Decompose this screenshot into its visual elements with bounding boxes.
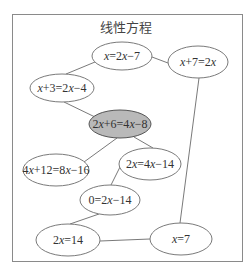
edge-n3-n4	[64, 102, 95, 117]
edge-n7-n8	[70, 214, 99, 224]
edge-n4-n5	[84, 138, 117, 162]
node-label: x=7	[171, 232, 190, 246]
equation-node: 0=2x−14	[80, 185, 140, 215]
edge-n4-n6	[134, 137, 153, 148]
node-label: x+3=2x−4	[37, 81, 87, 95]
equation-node: x=7	[150, 223, 212, 255]
edge-n1-n2	[152, 57, 168, 63]
node-label: 2x+6=4x−8	[93, 117, 148, 131]
equation-node: x=2x−7	[92, 42, 152, 70]
equation-graph: x=2x−7x+7=2xx+3=2x−42x+6=4x−84x+12=8x−16…	[0, 0, 251, 275]
equation-node: 2x=14	[36, 224, 100, 256]
equation-node: x+7=2x	[168, 46, 228, 78]
edge-n8-n9	[100, 239, 150, 241]
node-label: x=2x−7	[103, 49, 140, 63]
nodes-layer: x=2x−7x+7=2xx+3=2x−42x+6=4x−84x+12=8x−16…	[23, 42, 228, 256]
node-label: 0=2x−14	[89, 193, 132, 207]
edge-n2-n9	[180, 78, 199, 223]
equation-node: 2x=4x−14	[119, 148, 181, 180]
equation-node: x+3=2x−4	[30, 74, 94, 102]
node-label: x+7=2x	[179, 55, 217, 69]
node-label: 4x+12=8x−16	[23, 163, 90, 177]
node-label: 2x=4x−14	[126, 157, 174, 171]
equation-node: 2x+6=4x−8	[89, 110, 151, 138]
node-label: 2x=14	[53, 233, 83, 247]
edge-n1-n3	[66, 62, 95, 74]
equation-node: 4x+12=8x−16	[23, 154, 90, 186]
